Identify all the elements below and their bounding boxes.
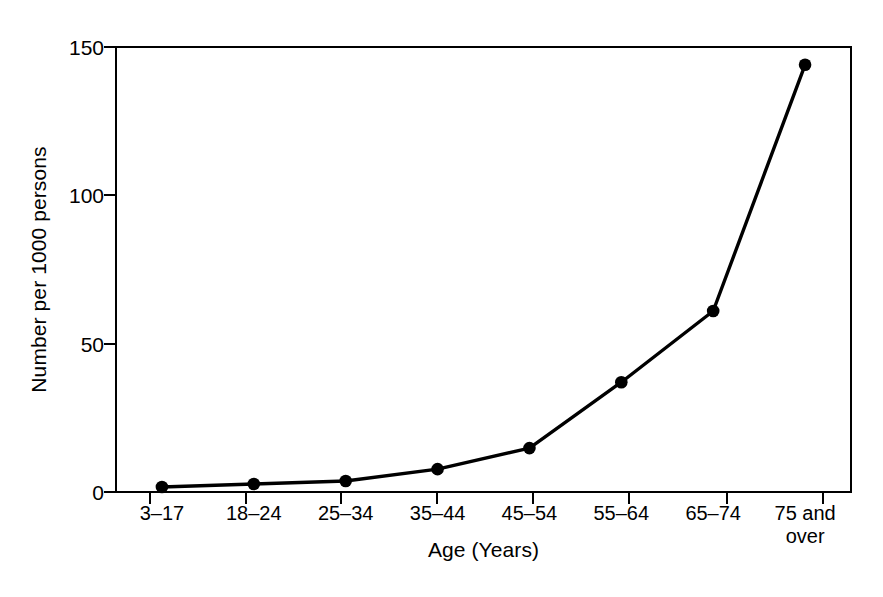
x-axis-tick-label: 18–24 (226, 502, 282, 525)
data-point (248, 478, 261, 491)
x-axis-tick-label: 65–74 (685, 502, 741, 525)
data-point (523, 442, 536, 455)
data-point (707, 305, 720, 318)
x-axis-tick-label: 35–44 (410, 502, 466, 525)
data-point (339, 475, 352, 488)
data-series-line (162, 65, 805, 487)
y-axis-title: Number per 1000 persons (22, 47, 56, 492)
axes-frame (116, 47, 851, 492)
x-axis-title: Age (Years) (116, 538, 851, 562)
data-series-markers (156, 59, 812, 494)
data-point (799, 59, 812, 72)
x-axis-tick-label: 55–64 (593, 502, 649, 525)
data-point (156, 481, 169, 494)
x-axis-tick-label: 3–17 (140, 502, 185, 525)
x-axis-tick-label: 25–34 (318, 502, 374, 525)
data-point (431, 463, 444, 476)
x-axis-tick-label: 45–54 (502, 502, 558, 525)
y-axis-ticks (104, 47, 116, 492)
chart-figure: 050100150 3–1718–2425–3435–4445–5455–646… (0, 0, 883, 597)
data-point (615, 376, 628, 389)
